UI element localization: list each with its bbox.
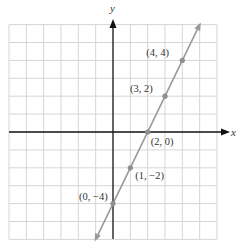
- data-point: [145, 129, 150, 134]
- data-points: (4, 4)(3, 2)(2, 0)(1, −2)(0, −4): [79, 47, 185, 206]
- line-arrow-up-icon: [194, 22, 200, 31]
- x-axis-label: x: [230, 126, 236, 138]
- point-label: (0, −4): [79, 191, 108, 203]
- data-point: [180, 58, 185, 63]
- point-label: (4, 4): [146, 47, 169, 59]
- data-point: [128, 165, 133, 170]
- point-label: (1, −2): [135, 170, 164, 182]
- data-point: [110, 201, 115, 206]
- point-label: (2, 0): [151, 136, 174, 148]
- point-label: (3, 2): [130, 83, 153, 95]
- line-arrow-down-icon: [95, 233, 101, 242]
- y-axis-label: y: [109, 2, 115, 14]
- coordinate-plane: x y (4, 4)(3, 2)(2, 0)(1, −2)(0, −4): [0, 0, 243, 248]
- data-point: [162, 94, 167, 99]
- x-axis-arrow-icon: [221, 129, 230, 136]
- y-axis-arrow-icon: [110, 19, 117, 28]
